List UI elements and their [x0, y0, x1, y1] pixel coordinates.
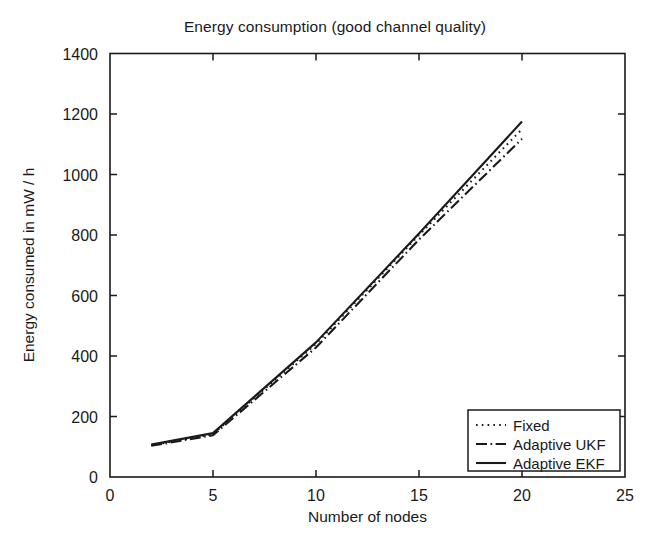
y-tick-label: 1000: [62, 167, 98, 184]
legend-label-adaptive-ukf: Adaptive UKF: [513, 436, 606, 453]
x-axis-title: Number of nodes: [308, 508, 427, 525]
y-tick-label: 200: [71, 409, 98, 426]
y-tick-label: 1400: [62, 46, 98, 63]
x-tick-label: 10: [307, 487, 325, 504]
y-axis-tick-labels: 0200400600800100012001400: [62, 46, 98, 487]
legend-label-adaptive-ekf: Adaptive EKF: [513, 455, 605, 472]
y-tick-label: 400: [71, 348, 98, 365]
x-tick-label: 15: [410, 487, 428, 504]
data-series-group: [151, 122, 522, 446]
legend: FixedAdaptive UKFAdaptive EKF: [468, 410, 620, 472]
x-tick-label: 5: [209, 487, 218, 504]
y-tick-label: 600: [71, 288, 98, 305]
y-axis-title: Energy consumed in mW / h: [20, 168, 37, 363]
series-line-adaptive-ekf: [151, 122, 522, 445]
y-tick-label: 800: [71, 227, 98, 244]
y-axis-ticks: [110, 114, 625, 417]
series-line-fixed: [151, 129, 522, 445]
x-tick-label: 0: [106, 487, 115, 504]
plot-canvas: 0510152025 0200400600800100012001400 Num…: [0, 0, 670, 550]
x-tick-label: 25: [616, 487, 634, 504]
y-tick-label: 0: [89, 469, 98, 486]
x-tick-label: 20: [513, 487, 531, 504]
legend-label-fixed: Fixed: [513, 417, 550, 434]
y-tick-label: 1200: [62, 106, 98, 123]
x-axis-tick-labels: 0510152025: [106, 487, 634, 504]
chart-figure: Energy consumption (good channel quality…: [0, 0, 670, 550]
